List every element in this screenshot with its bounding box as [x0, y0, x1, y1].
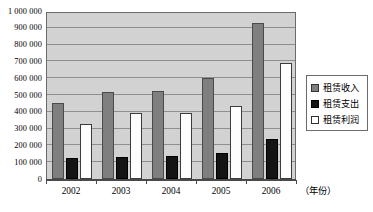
y-tick-label: 1 000 000	[0, 8, 42, 16]
expense-swatch	[311, 100, 319, 108]
bar-income-2004	[152, 91, 164, 179]
bar-group-2002	[52, 13, 92, 179]
bar-expense-2004	[166, 156, 178, 179]
bar-group-2006	[252, 13, 292, 179]
x-tick	[146, 180, 147, 184]
x-tick	[196, 180, 197, 184]
income-swatch	[311, 84, 319, 92]
bar-profit-2002	[80, 124, 92, 179]
legend-item-expense: 租赁支出	[311, 96, 364, 112]
bar-income-2003	[102, 92, 114, 179]
y-tick-label: 900 000	[0, 24, 42, 32]
y-tick-label: 0	[0, 176, 42, 184]
x-tick	[46, 180, 47, 184]
bar-expense-2003	[116, 157, 128, 179]
legend-item-profit: 租赁利润	[311, 112, 364, 128]
x-tick-label-2005: 2005	[196, 186, 246, 196]
x-tick	[296, 180, 297, 184]
y-axis: 1 000 000900 000800 000700 000600 000500…	[0, 0, 42, 190]
y-tick-label: 100 000	[0, 159, 42, 167]
bar-expense-2006	[266, 139, 278, 179]
bar-profit-2004	[180, 113, 192, 179]
bar-income-2006	[252, 23, 264, 179]
x-tick	[246, 180, 247, 184]
bar-chart: 1 000 000900 000800 000700 000600 000500…	[0, 0, 373, 212]
bar-group-2005	[202, 13, 242, 179]
y-tick-label: 700 000	[0, 58, 42, 66]
bar-group-2004	[152, 13, 192, 179]
y-tick-label: 800 000	[0, 41, 42, 49]
profit-swatch	[311, 116, 319, 124]
legend-label-expense: 租赁支出	[323, 99, 359, 109]
chart-legend: 租赁收入租赁支出租赁利润	[306, 75, 368, 131]
y-tick-label: 400 000	[0, 108, 42, 116]
bar-profit-2005	[230, 106, 242, 179]
x-tick-label-2002: 2002	[46, 186, 96, 196]
legend-label-income: 租赁收入	[323, 83, 359, 93]
y-tick-label: 600 000	[0, 75, 42, 83]
bar-expense-2005	[216, 153, 228, 179]
bar-group-2003	[102, 13, 142, 179]
bar-income-2002	[52, 103, 64, 179]
x-axis-title: （年份）	[300, 186, 336, 196]
x-axis-line	[46, 179, 296, 181]
bar-profit-2006	[280, 63, 292, 179]
x-tick-label-2004: 2004	[146, 186, 196, 196]
y-tick-label: 300 000	[0, 125, 42, 133]
bar-income-2005	[202, 78, 214, 179]
x-tick-label-2006: 2006	[246, 186, 296, 196]
bar-profit-2003	[130, 113, 142, 179]
plot-area	[46, 12, 296, 180]
y-tick-label: 200 000	[0, 142, 42, 150]
legend-item-income: 租赁收入	[311, 80, 364, 96]
legend-label-profit: 租赁利润	[323, 115, 359, 125]
bar-expense-2002	[66, 158, 78, 179]
x-tick-label-2003: 2003	[96, 186, 146, 196]
x-tick	[96, 180, 97, 184]
y-tick-label: 500 000	[0, 92, 42, 100]
